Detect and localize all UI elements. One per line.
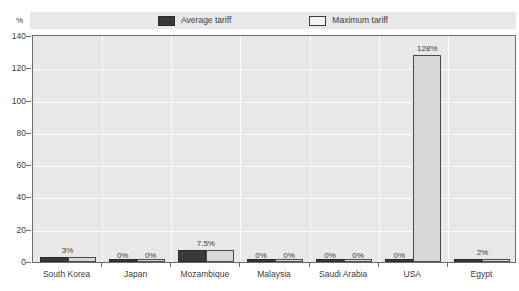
y-axis-tick xyxy=(26,165,31,166)
bar-value-label: 3% xyxy=(62,246,74,255)
bar-value-label: 0% xyxy=(283,251,295,260)
y-axis-tick xyxy=(26,262,31,263)
y-axis-tick-label: 0 xyxy=(0,257,26,267)
x-axis-category-label: Egypt xyxy=(471,269,493,279)
bar-maximum-tariff xyxy=(413,55,441,262)
x-axis-category-label: South Korea xyxy=(43,269,90,279)
y-axis-unit-label: % xyxy=(16,16,23,25)
bar-average-tariff xyxy=(178,250,206,262)
y-axis-tick xyxy=(26,133,31,134)
y-axis-tick-label: 100 xyxy=(0,96,26,106)
bar-value-label: 0% xyxy=(352,251,364,260)
x-axis-category-label: Japan xyxy=(124,269,147,279)
y-axis-tick xyxy=(26,101,31,102)
y-axis-tick xyxy=(26,68,31,69)
outlined-light-swatch-icon xyxy=(309,16,326,26)
plot-area: 3%0%0%7.5%0%0%0%0%0%128%2% xyxy=(32,35,516,263)
bar-value-label: 2% xyxy=(477,248,489,257)
x-axis-category-label: Malaysia xyxy=(257,269,291,279)
y-axis-tick xyxy=(26,36,31,37)
y-axis-tick-label: 60 xyxy=(0,160,26,170)
x-axis-category-label: USA xyxy=(404,269,421,279)
y-axis-tick xyxy=(26,197,31,198)
tariff-bar-chart: Average tariff Maximum tariff % 02040608… xyxy=(0,0,519,291)
x-axis-tick xyxy=(170,263,171,267)
bar-value-label: 7.5% xyxy=(197,239,215,248)
bar-average-tariff xyxy=(40,257,68,262)
x-axis-tick xyxy=(239,263,240,267)
x-axis-tick xyxy=(101,263,102,267)
bar-maximum-tariff xyxy=(68,257,96,262)
bar-group xyxy=(240,36,309,262)
y-axis-tick-label: 80 xyxy=(0,128,26,138)
bar-group xyxy=(448,36,517,262)
bar-group xyxy=(102,36,171,262)
y-axis-tick-label: 40 xyxy=(0,192,26,202)
filled-dark-swatch-icon xyxy=(158,16,175,26)
bar-value-label: 0% xyxy=(145,251,157,260)
x-axis-category-label: Mozambique xyxy=(181,269,230,279)
bar-maximum-tariff xyxy=(206,250,234,262)
y-axis-tick-label: 140 xyxy=(0,31,26,41)
bar-average-tariff xyxy=(454,259,482,262)
bar-group xyxy=(310,36,379,262)
x-axis-category-label: Saudi Arabia xyxy=(319,269,367,279)
bar-group xyxy=(379,36,448,262)
bar-maximum-tariff xyxy=(482,259,510,262)
bar-group xyxy=(33,36,102,262)
x-axis-tick xyxy=(378,263,379,267)
y-axis-tick-label: 120 xyxy=(0,63,26,73)
y-axis-tick xyxy=(26,230,31,231)
legend-label-maximum-tariff: Maximum tariff xyxy=(332,16,388,25)
bar-value-label: 128% xyxy=(417,44,437,53)
legend-item-average-tariff: Average tariff xyxy=(158,16,231,26)
bar-value-label: 0% xyxy=(324,251,336,260)
legend-item-maximum-tariff: Maximum tariff xyxy=(309,16,388,26)
x-axis-tick xyxy=(309,263,310,267)
y-axis-tick-label: 20 xyxy=(0,225,26,235)
bar-group xyxy=(171,36,240,262)
bar-value-label: 0% xyxy=(255,251,267,260)
bar-value-label: 0% xyxy=(394,251,406,260)
x-axis-tick xyxy=(447,263,448,267)
chart-legend: Average tariff Maximum tariff xyxy=(30,12,516,29)
bar-value-label: 0% xyxy=(117,251,129,260)
legend-label-average-tariff: Average tariff xyxy=(181,16,231,25)
